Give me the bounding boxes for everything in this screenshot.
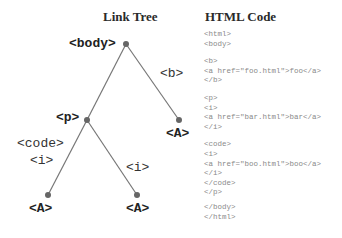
node-a-left-label: <A> (29, 201, 52, 216)
edge-body-a (126, 44, 179, 120)
code-line: </code> (204, 179, 321, 189)
code-line: <i> (204, 150, 321, 160)
node-body-label: <body> (69, 36, 116, 51)
code-line: </b> (204, 76, 321, 86)
node-a-left-dot (45, 192, 51, 198)
html-code-listing: <html> <body> <b> <a href="foo.html">foo… (204, 30, 321, 222)
edge-label-i-right: <i> (126, 160, 149, 175)
code-line: <a href="bar.html">bar</a> (204, 113, 321, 123)
node-a-right-label: <A> (166, 126, 189, 141)
node-a-mid-dot (134, 192, 140, 198)
code-line: <code> (204, 140, 321, 150)
code-line: </i> (204, 123, 321, 133)
node-p-label: <p> (56, 110, 79, 125)
code-line: <html> (204, 30, 321, 40)
edge-body-p (87, 44, 126, 120)
code-line: <i> (204, 104, 321, 114)
node-p-dot (84, 117, 90, 123)
code-line: <body> (204, 40, 321, 50)
edge-label-b: <b> (160, 66, 183, 81)
node-a-right-dot (176, 117, 182, 123)
node-a-mid-label: <A> (126, 201, 149, 216)
code-line: </i> (204, 169, 321, 179)
edge-p-a-mid (87, 120, 137, 195)
code-line: <a href="foo.html">foo</a> (204, 67, 321, 77)
node-body-dot (123, 41, 129, 47)
code-line: <p> (204, 94, 321, 104)
edge-label-i-left: <i> (30, 153, 53, 168)
edge-p-a-left (48, 120, 87, 195)
code-line: </p> (204, 188, 321, 198)
code-line: <b> (204, 57, 321, 67)
code-line: <a href="boo.html">boo</a> (204, 160, 321, 170)
code-line: </html> (204, 213, 321, 223)
code-line: </body> (204, 203, 321, 213)
edge-label-code: <code> (17, 136, 64, 151)
